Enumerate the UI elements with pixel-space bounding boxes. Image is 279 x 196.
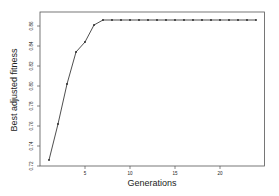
data-point — [156, 19, 158, 21]
data-point — [84, 41, 86, 43]
data-point — [192, 19, 194, 21]
data-point — [237, 19, 239, 21]
data-point — [183, 19, 185, 21]
data-point — [246, 19, 248, 21]
fitness-line-chart: 0.720.740.760.780.800.820.840.86 5101520… — [0, 0, 279, 196]
data-line — [49, 20, 256, 160]
x-axis: 5101520 — [84, 166, 223, 176]
data-point — [111, 19, 113, 21]
y-tick-label: 0.72 — [29, 161, 34, 170]
data-point — [129, 19, 131, 21]
data-point — [57, 123, 59, 125]
data-point — [147, 19, 149, 21]
data-point — [201, 19, 203, 21]
y-tick-label: 0.84 — [29, 41, 34, 50]
data-point — [210, 19, 212, 21]
y-tick-label: 0.82 — [29, 61, 34, 70]
data-point — [255, 19, 257, 21]
x-tick-label: 5 — [84, 171, 87, 176]
y-axis: 0.720.740.760.780.800.820.840.86 — [29, 21, 40, 170]
x-axis-title: Generations — [127, 178, 177, 188]
x-tick-label: 20 — [217, 171, 223, 176]
data-point — [75, 51, 77, 53]
y-tick-label: 0.74 — [29, 141, 34, 150]
data-point — [165, 19, 167, 21]
x-tick-label: 15 — [172, 171, 178, 176]
y-tick-label: 0.80 — [29, 81, 34, 90]
y-tick-label: 0.76 — [29, 121, 34, 130]
data-points — [48, 19, 257, 161]
data-point — [120, 19, 122, 21]
data-point — [48, 159, 50, 161]
x-tick-label: 10 — [127, 171, 133, 176]
data-point — [138, 19, 140, 21]
plot-frame — [40, 12, 265, 166]
y-axis-title: Best adjusted fitness — [9, 48, 19, 132]
data-point — [228, 19, 230, 21]
y-tick-label: 0.78 — [29, 101, 34, 110]
data-point — [219, 19, 221, 21]
data-point — [174, 19, 176, 21]
y-tick-label: 0.86 — [29, 21, 34, 30]
data-point — [66, 83, 68, 85]
data-point — [93, 24, 95, 26]
data-point — [102, 19, 104, 21]
